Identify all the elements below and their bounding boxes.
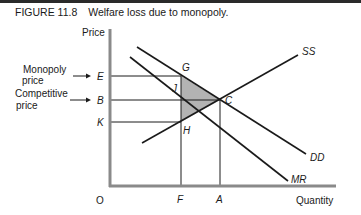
origin-label: O	[96, 195, 104, 206]
price-label-b: B	[97, 95, 104, 106]
monopoly-annotation-line1: Monopoly	[23, 64, 66, 75]
competitive-annotation-line1: Competitive	[15, 88, 68, 99]
arrowhead-icon	[86, 98, 91, 103]
marginal-revenue-curve-mr	[130, 57, 288, 181]
x-axis-label: Quantity	[296, 195, 333, 206]
curve-label-mr: MR	[291, 174, 307, 185]
point-label-c: C	[225, 95, 233, 106]
price-label-k: K	[97, 117, 105, 128]
curve-label-dd: DD	[310, 152, 324, 163]
monopoly-annotation-line2: price	[22, 75, 44, 86]
welfare-loss-area	[181, 76, 220, 122]
curve-label-ss: SS	[302, 46, 316, 57]
welfare-loss-diagram: Price Quantity O Monopoly price Competit…	[0, 0, 361, 215]
y-axis-label: Price	[82, 27, 105, 38]
point-label-g: G	[182, 62, 190, 73]
price-label-e: E	[97, 71, 104, 82]
arrowhead-icon	[86, 74, 91, 79]
quantity-label-f: F	[177, 194, 184, 205]
competitive-annotation-line2: price	[16, 100, 38, 111]
point-label-h: H	[183, 125, 191, 136]
point-label-j: J	[171, 83, 178, 94]
quantity-label-a: A	[215, 194, 223, 205]
